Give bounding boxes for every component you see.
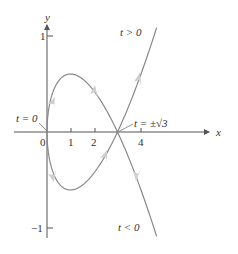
label-t-zero: t = 0 [16, 112, 38, 124]
t-zero-leader [39, 123, 47, 131]
y-axis-label: y [44, 11, 50, 23]
parametric-curve-diagram: y x 1 −1 0 1 2 4 t > 0 t < 0 t = 0 t = ±… [0, 0, 238, 254]
label-t-positive: t > 0 [120, 26, 142, 38]
label-t-root3: t = ±√3 [134, 117, 168, 129]
x-tick-4: 4 [138, 136, 144, 148]
label-t-negative: t < 0 [118, 221, 140, 233]
y-tick-1: 1 [40, 30, 46, 42]
x-tick-2: 2 [91, 136, 97, 148]
x-tick-0: 0 [40, 136, 46, 148]
y-tick-neg1: −1 [31, 222, 43, 234]
arrow-icon [100, 150, 107, 163]
x-tick-1: 1 [68, 136, 74, 148]
x-axis-label: x [215, 126, 221, 138]
